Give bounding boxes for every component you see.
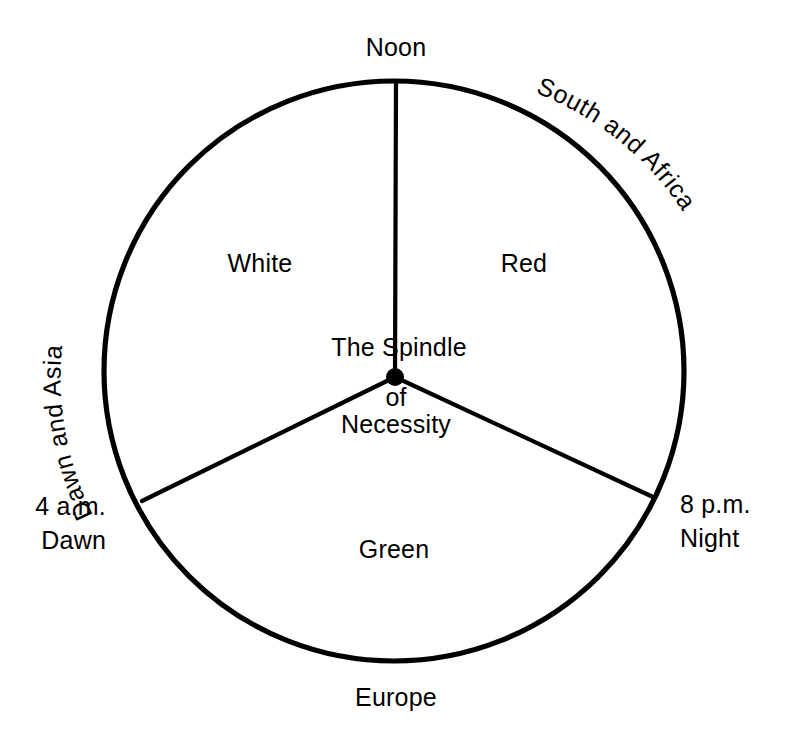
center-label-line1: The Spindle — [331, 333, 467, 361]
spoke-dawn — [142, 377, 395, 501]
spindle-of-necessity-diagram: The Spindle of Necessity White Red Green… — [0, 0, 789, 753]
center-label-line2: of — [385, 383, 406, 411]
center-label-line3: Necessity — [341, 410, 451, 438]
time-marker-dawn-line1: 4 a.m. — [35, 492, 106, 520]
curved-label-south-and-africa-text: South and Africa — [533, 71, 702, 215]
rim-label-noon: Noon — [366, 33, 427, 61]
diagram-canvas: The Spindle of Necessity White Red Green… — [0, 0, 789, 753]
sector-label-green: Green — [359, 535, 429, 563]
time-marker-dawn-line2: Dawn — [41, 526, 106, 554]
sector-label-red: Red — [501, 249, 547, 277]
sector-label-white: White — [228, 249, 293, 277]
time-marker-night-line1: 8 p.m. — [680, 490, 751, 518]
rim-label-europe: Europe — [355, 683, 437, 711]
curved-label-south-and-africa: South and Africa — [533, 71, 702, 215]
time-marker-night-line2: Night — [680, 524, 739, 552]
